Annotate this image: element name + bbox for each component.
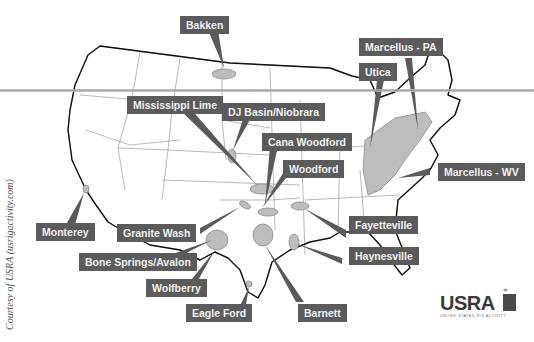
play-fayetteville xyxy=(291,202,309,210)
label-mississippi-lime: Mississippi Lime xyxy=(127,96,223,114)
play-monterey xyxy=(83,185,89,193)
play-bone-springs xyxy=(206,230,228,250)
label-haynesville: Haynesville xyxy=(349,247,419,265)
logo-subtitle: UNITED STATES RIG ACTIVITY xyxy=(440,314,506,318)
label-marcellus-pa: Marcellus - PA xyxy=(359,38,443,56)
label-woodford: Woodford xyxy=(283,160,344,178)
credit-text: Courtesy of USRA (usrigactivity.com) xyxy=(4,179,15,330)
label-marcellus-wv: Marcellus - WV xyxy=(438,163,525,181)
rig-icon xyxy=(503,294,516,311)
usra-logo: USRA ⚭ UNITED STATES RIG ACTIVITY xyxy=(440,292,520,322)
label-wolfberry: Wolfberry xyxy=(146,279,207,297)
play-bakken xyxy=(212,69,236,79)
play-cana-woodford xyxy=(258,208,278,216)
play-mississippi-lime xyxy=(250,184,274,194)
label-bone-springs: Bone Springs/Avalon xyxy=(79,253,197,271)
label-cana-woodford: Cana Woodford xyxy=(262,133,352,151)
play-eagle-ford xyxy=(246,281,252,287)
label-utica: Utica xyxy=(359,63,397,81)
label-barnett: Barnett xyxy=(298,304,347,322)
logo-text: USRA xyxy=(440,292,495,315)
label-eagle-ford: Eagle Ford xyxy=(186,304,252,322)
horizontal-rule xyxy=(0,89,534,92)
label-fayetteville: Fayetteville xyxy=(349,216,418,234)
label-monterey: Monterey xyxy=(36,223,95,241)
label-dj-basin: DJ Basin/Niobrara xyxy=(222,103,325,121)
label-bakken: Bakken xyxy=(180,16,229,34)
play-barnett xyxy=(253,224,273,246)
play-haynesville xyxy=(289,234,299,250)
label-granite-wash: Granite Wash xyxy=(117,224,196,242)
